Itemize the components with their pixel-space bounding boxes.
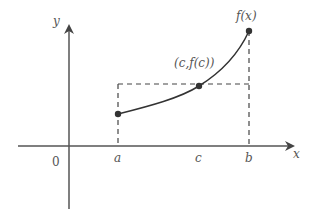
point-label-cfc: (c,f(c)) [174,56,215,70]
curve-f [118,31,249,114]
tick-label-c: c [195,151,202,165]
origin-label: 0 [52,155,60,169]
y-axis-label: y [52,14,60,28]
tick-label-b: b [245,151,253,165]
tick-label-a: a [114,151,121,165]
point-a [115,111,121,117]
point-b [246,28,252,34]
curve-label-fx: f(x) [235,9,257,23]
point-c [196,83,202,89]
x-axis-label: x [293,147,300,161]
diagram-canvas: y x 0 a c b f(x) (c,f(c)) [0,0,316,224]
